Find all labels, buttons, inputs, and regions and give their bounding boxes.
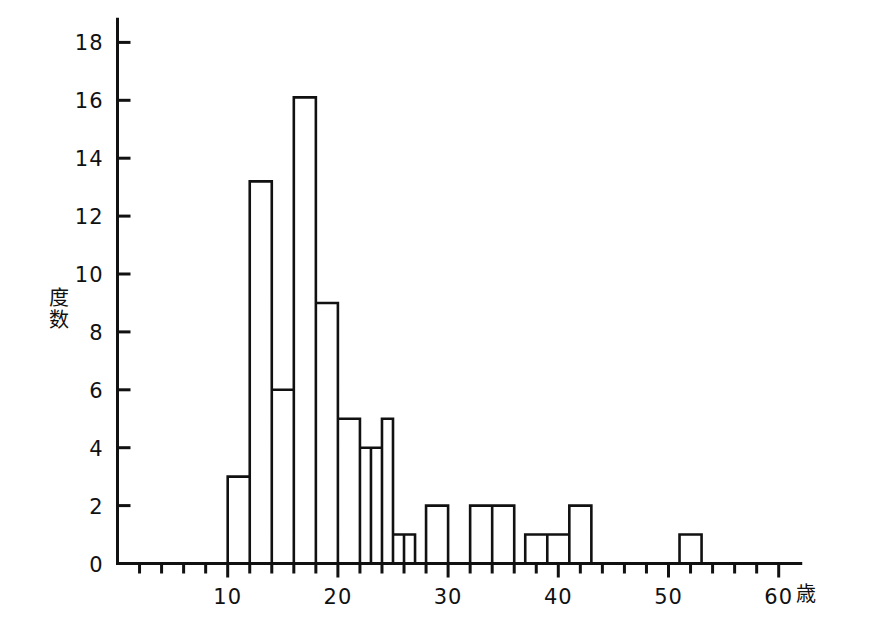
y-tick-label: 6 xyxy=(89,379,103,403)
histogram-chart: 024681012141618 102030405060 度数 歳 xyxy=(0,0,870,641)
chart-canvas: 024681012141618 102030405060 xyxy=(0,0,870,641)
y-tick-label: 4 xyxy=(89,437,103,461)
x-axis-unit-label: 歳 xyxy=(796,578,816,607)
x-tick-labels: 102030405060 xyxy=(213,585,793,609)
histogram-bar-group xyxy=(470,506,514,564)
y-tick-label: 12 xyxy=(75,205,104,229)
y-axis-label: 度数 xyxy=(48,288,70,331)
y-tick-label: 18 xyxy=(75,31,104,55)
y-tick-labels: 024681012141618 xyxy=(75,31,104,576)
histogram-bar-group xyxy=(525,506,591,564)
histogram-bars xyxy=(228,97,702,563)
y-axis xyxy=(118,19,131,563)
histogram-bar-group xyxy=(426,506,448,564)
x-tick-label: 10 xyxy=(213,585,242,609)
y-tick-label: 14 xyxy=(75,147,104,171)
histogram-bar-group xyxy=(228,97,415,563)
x-tick-label: 50 xyxy=(654,585,683,609)
y-tick-label: 8 xyxy=(89,321,103,345)
histogram-bar-group xyxy=(680,535,702,564)
y-tick-label: 10 xyxy=(75,263,104,287)
y-tick-label: 2 xyxy=(89,495,103,519)
x-tick-label: 20 xyxy=(324,585,353,609)
x-axis xyxy=(118,564,801,578)
x-tick-label: 30 xyxy=(434,585,463,609)
y-tick-label: 16 xyxy=(75,89,104,113)
x-tick-label: 60 xyxy=(764,585,793,609)
x-tick-label: 40 xyxy=(544,585,573,609)
y-tick-label: 0 xyxy=(89,553,103,577)
